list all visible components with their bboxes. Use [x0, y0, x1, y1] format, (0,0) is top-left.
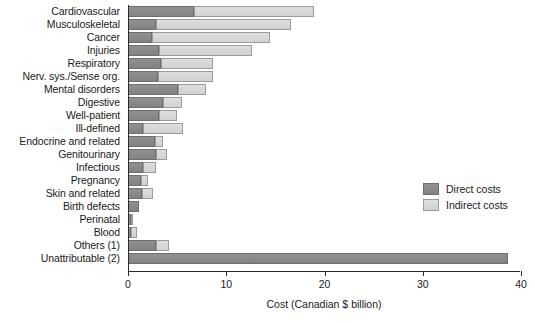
bar-segment-direct-costs [128, 188, 142, 199]
bar-segment-direct-costs [128, 71, 158, 82]
bar-segment-indirect-costs [143, 162, 157, 173]
bar-row [128, 70, 523, 83]
bar-segment-direct-costs [128, 240, 156, 251]
bar-segment-indirect-costs [156, 19, 292, 30]
bar-segment-indirect-costs [131, 227, 137, 238]
x-tick-label: 0 [125, 278, 131, 290]
bar-row [128, 135, 523, 148]
bar-segment-indirect-costs [161, 58, 213, 69]
bar-row [128, 161, 523, 174]
category-label: Endocrine and related [0, 135, 124, 148]
bar-row [128, 44, 523, 57]
bar-segment-indirect-costs [141, 175, 148, 186]
bar-segment-direct-costs [128, 58, 161, 69]
plot-area [128, 5, 523, 270]
bar-segment-indirect-costs [152, 32, 271, 43]
bar-row [128, 5, 523, 18]
x-axis-title: Cost (Canadian $ billion) [128, 298, 520, 310]
category-label: Genitourinary [0, 148, 124, 161]
category-label: Pregnancy [0, 174, 124, 187]
category-label: Blood [0, 226, 124, 239]
legend-label-direct-costs: Direct costs [446, 183, 501, 195]
category-label: Digestive [0, 96, 124, 109]
category-axis-labels: CardiovascularMusculoskeletalCancerInjur… [0, 5, 124, 265]
bar-segment-direct-costs [128, 84, 178, 95]
bar-segment-indirect-costs [163, 97, 182, 108]
x-tick [325, 271, 326, 276]
bar-row [128, 96, 523, 109]
bar-row [128, 252, 523, 265]
bar-row [128, 31, 523, 44]
bar-segment-direct-costs [128, 6, 194, 17]
bar-segment-direct-costs [128, 175, 141, 186]
x-tick [226, 271, 227, 276]
x-tick-label: 40 [515, 278, 527, 290]
category-label: Perinatal [0, 213, 124, 226]
bar-segment-direct-costs [128, 97, 163, 108]
category-label: Well-patient [0, 109, 124, 122]
bar-segment-direct-costs [128, 253, 508, 264]
category-label: Birth defects [0, 200, 124, 213]
bar-row [128, 109, 523, 122]
category-label: Musculoskeletal [0, 18, 124, 31]
bar-segment-direct-costs [128, 201, 139, 212]
category-label: Cardiovascular [0, 5, 124, 18]
bar-segment-indirect-costs [159, 45, 251, 56]
category-label: Injuries [0, 44, 124, 57]
bar-row [128, 226, 523, 239]
x-tick-label: 30 [417, 278, 429, 290]
category-label: Infectious [0, 161, 124, 174]
x-tick [423, 271, 424, 276]
bar-segment-direct-costs [128, 136, 155, 147]
bar-segment-indirect-costs [158, 71, 213, 82]
category-label: Cancer [0, 31, 124, 44]
y-axis-line [128, 5, 129, 271]
legend-swatch-direct-costs [423, 183, 439, 195]
bar-row [128, 148, 523, 161]
bar-segment-indirect-costs [194, 6, 314, 17]
bar-segment-indirect-costs [131, 214, 133, 225]
bar-row [128, 122, 523, 135]
category-label: Skin and related [0, 187, 124, 200]
bar-segment-direct-costs [128, 19, 156, 30]
bar-segment-indirect-costs [156, 149, 167, 160]
bar-segment-direct-costs [128, 45, 159, 56]
bar-segment-direct-costs [128, 162, 143, 173]
x-tick [128, 271, 129, 276]
x-tick [521, 271, 522, 276]
bar-segment-direct-costs [128, 123, 143, 134]
bar-segment-indirect-costs [142, 188, 153, 199]
bar-segment-indirect-costs [159, 110, 177, 121]
bar-row [128, 213, 523, 226]
category-label: Mental disorders [0, 83, 124, 96]
bar-row [128, 83, 523, 96]
legend-swatch-indirect-costs [423, 199, 439, 211]
cost-by-diagnostic-category-chart: CardiovascularMusculoskeletalCancerInjur… [0, 0, 535, 323]
x-tick-label: 20 [319, 278, 331, 290]
bar-segment-indirect-costs [156, 240, 169, 251]
bar-row [128, 57, 523, 70]
bar-segment-direct-costs [128, 32, 152, 43]
bar-segment-direct-costs [128, 149, 156, 160]
bar-row [128, 18, 523, 31]
category-label: Respiratory [0, 57, 124, 70]
bar-segment-indirect-costs [178, 84, 206, 95]
bar-row [128, 239, 523, 252]
legend-item-direct-costs: Direct costs [423, 181, 508, 196]
legend-label-indirect-costs: Indirect costs [446, 199, 508, 211]
category-label: Unattributable (2) [0, 252, 124, 265]
x-tick-label: 10 [220, 278, 232, 290]
bar-segment-indirect-costs [143, 123, 183, 134]
legend-item-indirect-costs: Indirect costs [423, 197, 508, 212]
category-label: Nerv. sys./Sense org. [0, 70, 124, 83]
category-label: Ill-defined [0, 122, 124, 135]
bar-segment-indirect-costs [155, 136, 164, 147]
bar-segment-direct-costs [128, 110, 159, 121]
chart-legend: Direct costs Indirect costs [423, 181, 508, 213]
category-label: Others (1) [0, 239, 124, 252]
